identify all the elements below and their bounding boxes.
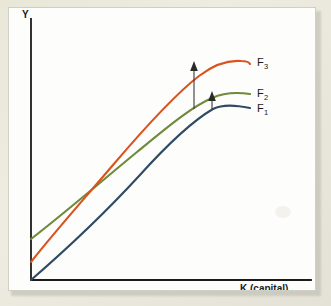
curve-label-f2-base: F xyxy=(257,87,264,99)
curve-label-f2-subscript: 2 xyxy=(264,93,268,102)
curve-label-f3: F 3 xyxy=(257,56,268,71)
shift-arrow-f1-to-f3 xyxy=(190,61,198,109)
shift-arrow-f1-to-f3-head xyxy=(190,61,198,71)
curve-label-f1: F 1 xyxy=(257,102,268,117)
figure-container: Y K (capital) F 3 xyxy=(0,0,331,306)
curve-f1 xyxy=(31,106,250,281)
curve-label-f1-base: F xyxy=(257,102,264,114)
curve-label-f2: F 2 xyxy=(257,87,268,102)
curve-label-f3-base: F xyxy=(257,56,264,68)
shift-arrow-f1-to-f2 xyxy=(208,91,216,109)
production-function-chart: Y K (capital) F 3 xyxy=(9,8,316,291)
chart-card: Y K (capital) F 3 xyxy=(8,7,316,291)
curve-f3 xyxy=(31,61,250,262)
x-axis-label: K (capital) xyxy=(240,283,288,291)
curve-label-f1-subscript: 1 xyxy=(264,108,268,117)
curve-f2 xyxy=(31,93,250,239)
curve-label-f3-subscript: 3 xyxy=(264,62,268,71)
y-axis-label: Y xyxy=(22,9,29,20)
